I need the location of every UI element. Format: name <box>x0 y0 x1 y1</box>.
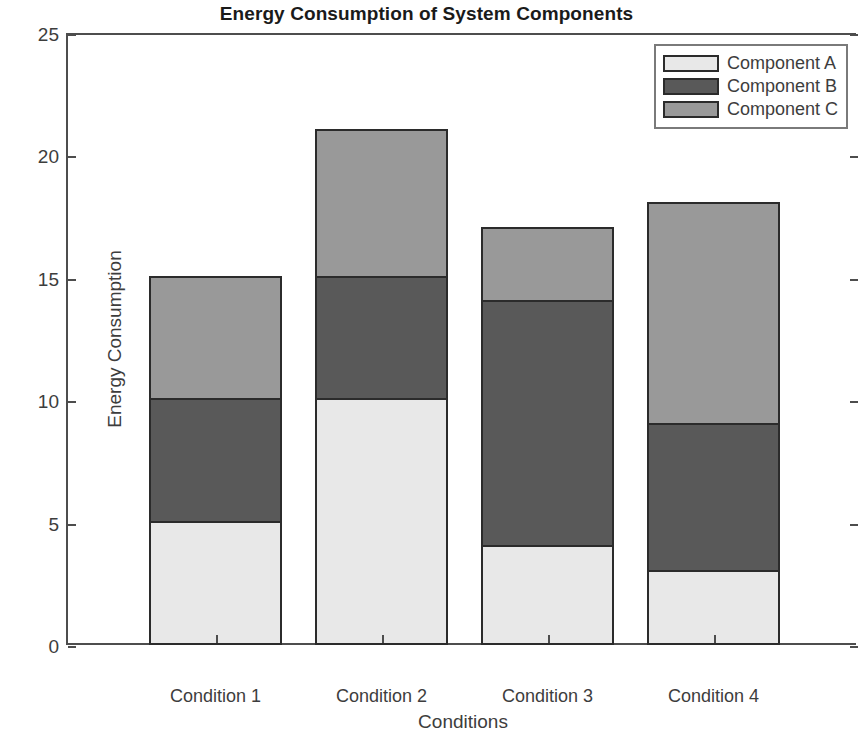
y-tick-mark <box>68 156 76 158</box>
bar-stack[interactable] <box>149 31 282 643</box>
bar-segment[interactable] <box>647 423 780 572</box>
y-tick-mark-right <box>850 279 858 281</box>
bar-segment[interactable] <box>481 300 614 547</box>
y-tick-mark <box>68 524 76 526</box>
y-tick-mark <box>68 401 76 403</box>
bar-segment[interactable] <box>149 398 282 522</box>
x-tick-label: Condition 2 <box>336 686 427 707</box>
y-tick-mark <box>68 646 76 648</box>
legend-item[interactable]: Component B <box>663 75 838 98</box>
bar-segment[interactable] <box>315 276 448 400</box>
legend-item[interactable]: Component C <box>663 98 838 121</box>
x-tick-mark <box>216 635 218 643</box>
x-axis-label: Conditions <box>68 711 858 732</box>
legend-swatch <box>663 55 719 72</box>
x-tick-mark <box>548 635 550 643</box>
y-tick-mark-right <box>850 524 858 526</box>
y-tick-label: 5 <box>48 514 59 536</box>
x-tick-label: Condition 3 <box>502 686 593 707</box>
y-tick-label: 15 <box>38 269 59 291</box>
x-tick-label: Condition 1 <box>170 686 261 707</box>
legend-item[interactable]: Component A <box>663 52 838 75</box>
bar-segment[interactable] <box>315 398 448 645</box>
bar-segment[interactable] <box>647 570 780 645</box>
bar-stack[interactable] <box>481 31 614 643</box>
legend-swatch <box>663 101 719 118</box>
bar-segment[interactable] <box>481 227 614 302</box>
legend-label: Component C <box>727 99 838 120</box>
y-tick-mark <box>68 34 76 36</box>
y-axis-label: Energy Consumption <box>104 250 126 427</box>
legend-label: Component A <box>727 53 836 74</box>
bar-segment[interactable] <box>149 276 282 400</box>
bar-segment[interactable] <box>647 202 780 424</box>
chart-title: Energy Consumption of System Components <box>0 3 853 25</box>
bar-segment[interactable] <box>315 129 448 278</box>
y-tick-label: 10 <box>38 391 59 413</box>
bar-segment[interactable] <box>149 521 282 645</box>
y-tick-label: 0 <box>48 636 59 658</box>
bar-stack[interactable] <box>315 31 448 643</box>
chart-legend: Component AComponent BComponent C <box>654 44 848 129</box>
x-tick-mark <box>382 635 384 643</box>
legend-swatch <box>663 78 719 95</box>
legend-label: Component B <box>727 76 837 97</box>
y-tick-mark-right <box>850 34 858 36</box>
y-tick-label: 25 <box>38 24 59 46</box>
y-tick-mark <box>68 279 76 281</box>
y-tick-mark-right <box>850 646 858 648</box>
y-tick-mark-right <box>850 401 858 403</box>
x-tick-mark <box>714 635 716 643</box>
y-tick-label: 20 <box>38 146 59 168</box>
x-tick-label: Condition 4 <box>668 686 759 707</box>
bar-segment[interactable] <box>481 545 614 645</box>
y-tick-mark-right <box>850 156 858 158</box>
